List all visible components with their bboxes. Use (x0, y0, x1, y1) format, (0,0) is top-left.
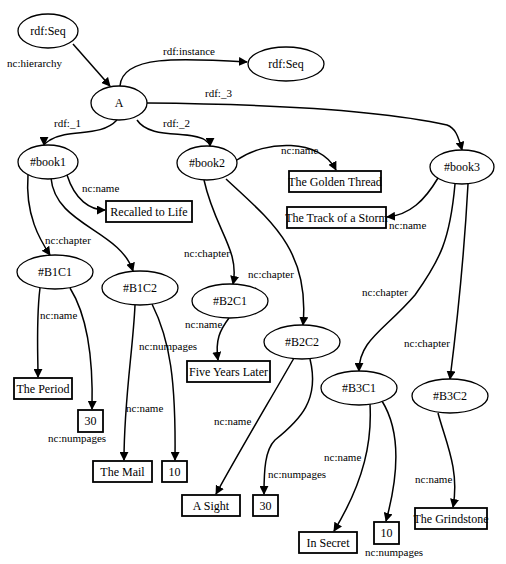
edge: rdf:instance (120, 45, 247, 86)
rdf-graph-diagram: nc:hierarchyrdf:instancerdf:_3rdf:_1rdf:… (0, 0, 506, 564)
edge-arrow (204, 180, 234, 284)
node-book3: #book3 (430, 150, 494, 184)
edge-label: rdf:instance (163, 45, 215, 57)
edge: nc:chapter (184, 180, 234, 284)
edge: nc:name (38, 288, 78, 377)
edge-label: nc:chapter (248, 268, 294, 280)
node-label: A Sight (193, 499, 230, 513)
node-label: In Secret (307, 536, 351, 550)
node-label: The Grindstone (414, 512, 489, 526)
edge-arrow (73, 44, 110, 86)
edge-label: nc:name (324, 451, 361, 463)
edge: nc:name (387, 178, 438, 231)
node-label: #B1C2 (123, 281, 157, 295)
node-title3: The Track of a Storm (285, 207, 388, 228)
node-book1: #book1 (18, 145, 78, 179)
node-seq_inst: rdf:Seq (248, 47, 324, 81)
edge: rdf:_2 (137, 117, 210, 146)
node-label: #B2C2 (285, 335, 319, 349)
node-label: rdf:Seq (30, 24, 65, 38)
edge: nc:hierarchy (7, 44, 110, 86)
edge-label: nc:hierarchy (7, 57, 62, 69)
node-label: A (115, 96, 124, 110)
node-lit_asight: A Sight (182, 495, 240, 516)
edge-label: nc:name (214, 415, 251, 427)
edge-arrow (152, 304, 175, 460)
edge: rdf:_1 (44, 117, 117, 145)
node-label: #B3C1 (342, 381, 376, 395)
node-lit_period: The Period (14, 378, 72, 399)
edge-label: nc:chapter (184, 247, 230, 259)
edge-label: nc:name (185, 318, 222, 330)
edge: rdf:_3 (147, 87, 462, 150)
node-label: #B1C1 (38, 265, 72, 279)
node-B1C1: #B1C1 (17, 255, 93, 289)
node-label: rdf:Seq (268, 57, 303, 71)
node-lit_insecret: In Secret (299, 532, 357, 553)
node-title1: Recalled to Life (106, 201, 192, 222)
edge-label: nc:name (389, 219, 426, 231)
node-label: 10 (381, 526, 393, 540)
edge: nc:name (415, 413, 455, 507)
edge-label: nc:numpages (268, 468, 326, 480)
edge-label: rdf:_1 (54, 117, 81, 129)
edge-label: nc:name (126, 402, 163, 414)
node-label: The Golden Thread (288, 175, 382, 189)
node-B2C2: #B2C2 (264, 325, 340, 359)
node-label: Five Years Later (189, 365, 268, 379)
node-title2: The Golden Thread (288, 171, 382, 192)
edge-label: nc:name (40, 309, 77, 321)
edge: nc:name (185, 318, 229, 360)
node-seq_top: rdf:Seq (18, 14, 78, 48)
node-label: #book3 (444, 160, 480, 174)
node-book2: #book2 (177, 146, 237, 180)
node-lit_10b: 10 (374, 522, 399, 544)
node-A: A (91, 86, 147, 120)
edge-arrow (120, 60, 247, 86)
node-B2C1: #B2C1 (192, 284, 268, 318)
node-label: Recalled to Life (110, 205, 187, 219)
edge-label: nc:numpages (139, 340, 197, 352)
edge-label: nc:numpages (48, 432, 106, 444)
edge-arrow (382, 401, 396, 521)
node-label: 30 (260, 499, 272, 513)
edge-arrow (450, 184, 468, 379)
node-label: #B2C1 (213, 294, 247, 308)
edge-arrow (147, 103, 462, 150)
edge-label: nc:chapter (404, 337, 450, 349)
node-label: The Mail (100, 465, 145, 479)
edge-label: nc:name (281, 144, 318, 156)
edge-arrow (124, 305, 135, 460)
node-B1C2: #B1C2 (102, 271, 178, 305)
edge-arrow (38, 288, 41, 377)
edge-arrow (70, 288, 92, 409)
edge-arrow (387, 178, 438, 217)
node-label: #B3C2 (433, 389, 467, 403)
edge-label: nc:chapter (45, 234, 91, 246)
node-lit_30a: 30 (78, 410, 103, 432)
edge-arrow (438, 413, 455, 507)
edge-label: nc:numpages (365, 546, 423, 558)
node-B3C1: #B3C1 (321, 371, 397, 405)
edge: nc:name (324, 404, 370, 531)
node-label: 10 (169, 465, 181, 479)
edge-label: nc:chapter (362, 286, 408, 298)
node-label: #book1 (30, 155, 66, 169)
edge: nc:chapter (404, 184, 468, 379)
node-lit_30b: 30 (253, 495, 278, 516)
edge-label: nc:name (415, 473, 452, 485)
edge: nc:name (237, 144, 336, 170)
node-label: 30 (85, 414, 97, 428)
node-B3C2: #B3C2 (412, 379, 488, 413)
node-label: The Period (17, 382, 70, 396)
edge-label: rdf:_2 (163, 117, 190, 129)
node-lit_10a: 10 (162, 461, 187, 482)
node-label: The Track of a Storm (285, 211, 388, 225)
node-lit_grindstone: The Grindstone (414, 508, 489, 529)
node-lit_fiveyears: Five Years Later (187, 361, 270, 382)
edge: nc:numpages (264, 359, 326, 494)
node-lit_mail: The Mail (93, 461, 152, 482)
edge: nc:name (124, 305, 163, 460)
edge-label: rdf:_3 (205, 87, 232, 99)
edge-arrow (334, 404, 370, 531)
